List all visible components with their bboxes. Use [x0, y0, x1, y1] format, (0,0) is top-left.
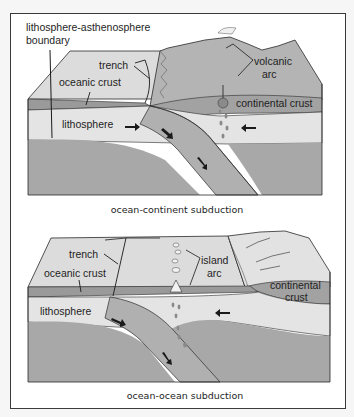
label-oceanic-crust: oceanic crust: [44, 267, 106, 279]
label-arc: arc: [262, 68, 277, 80]
label-island: island: [201, 254, 229, 266]
label-lithosphere: lithosphere: [62, 118, 114, 130]
label-continental: continental: [270, 279, 321, 291]
caption-ocean-continent: ocean-continent subduction: [111, 204, 244, 215]
caption-ocean-ocean: ocean-ocean subduction: [127, 390, 244, 401]
subduction-diagram: lithosphere-asthenosphere boundary trenc…: [0, 0, 354, 417]
ocean-continent-diagram: lithosphere-asthenosphere boundary trenc…: [26, 21, 322, 215]
label-continental-crust: continental crust: [236, 97, 313, 109]
label-trench: trench: [69, 248, 98, 260]
ocean-ocean-diagram: trench oceanic crust lithosphere island …: [28, 231, 330, 401]
label-oceanic-crust: oceanic crust: [59, 76, 121, 88]
label-trench: trench: [99, 59, 128, 71]
label-lithosphere: lithosphere: [40, 305, 92, 317]
label-boundary-line2: boundary: [26, 34, 71, 46]
label-volcanic: volcanic: [254, 55, 292, 67]
label-boundary-line1: lithosphere-asthenosphere: [26, 21, 150, 33]
label-arc: arc: [207, 267, 222, 279]
label-crust: crust: [285, 291, 308, 303]
